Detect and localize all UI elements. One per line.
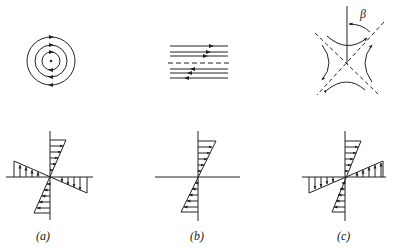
panel-a-label: (a) [36, 229, 50, 243]
panel-c-velocity-profile [302, 131, 386, 221]
panel-a-velocity-profile [6, 131, 93, 220]
panel-a-streamlines [27, 35, 75, 87]
panel-b-streamlines [168, 44, 230, 80]
panel-b-label: (b) [190, 229, 204, 243]
panel-c-streamlines [315, 6, 384, 95]
panel-c-label: (c) [337, 229, 350, 243]
panel-b-velocity-profile [155, 131, 240, 221]
beta-angle-label: β [359, 7, 366, 21]
flow-kinematics-figure: β [0, 0, 394, 248]
